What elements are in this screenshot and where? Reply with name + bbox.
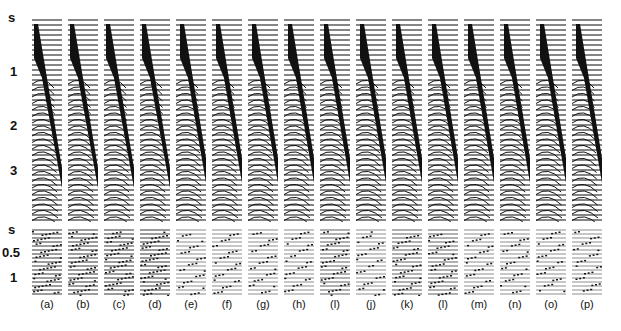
panel-top-16: [572, 18, 602, 222]
panel-bottom-12: [428, 228, 458, 296]
y-label-top-3: 3: [10, 163, 17, 178]
panel-label: (a): [30, 298, 64, 310]
panel-top-7: [248, 18, 278, 222]
y-label-top-2: 2: [10, 118, 17, 133]
panel-bottom-8: [284, 228, 314, 296]
panel-top-11: [392, 18, 422, 222]
panel-top-1: [32, 18, 62, 222]
panel-bottom-14: [500, 228, 530, 296]
panel-label: (n): [498, 298, 532, 310]
panel-top-14: [500, 18, 530, 222]
panel-bottom-3: [104, 228, 134, 296]
panel-top-10: [356, 18, 386, 222]
panel-label: (g): [246, 298, 280, 310]
panel-label: (d): [138, 298, 172, 310]
panel-label: (p): [570, 298, 604, 310]
panel-label: (m): [462, 298, 496, 310]
panel-bottom-6: [212, 228, 242, 296]
panel-top-5: [176, 18, 206, 222]
panel-label: (o): [534, 298, 568, 310]
panel-top-13: [464, 18, 494, 222]
panel-top-4: [140, 18, 170, 222]
panel-label: (b): [66, 298, 100, 310]
panel-bottom-7: [248, 228, 278, 296]
y-label-bottom-s: s: [8, 222, 15, 237]
panel-label: (j): [354, 298, 388, 310]
panel-bottom-11: [392, 228, 422, 296]
panel-top-2: [68, 18, 98, 222]
panel-bottom-15: [536, 228, 566, 296]
panel-bottom-5: [176, 228, 206, 296]
panel-top-8: [284, 18, 314, 222]
panel-label: (h): [282, 298, 316, 310]
panel-label: (c): [102, 298, 136, 310]
panel-label: (e): [174, 298, 208, 310]
panel-label: (f): [210, 298, 244, 310]
panel-bottom-4: [140, 228, 170, 296]
panel-bottom-13: [464, 228, 494, 296]
panel-bottom-9: [320, 228, 350, 296]
panel-label: (l): [318, 298, 352, 310]
panel-bottom-10: [356, 228, 386, 296]
panel-top-15: [536, 18, 566, 222]
panel-bottom-1: [32, 228, 62, 296]
panel-label: (k): [390, 298, 424, 310]
y-label-top-1: 1: [10, 64, 17, 79]
y-label-bottom-1: 1: [10, 270, 17, 285]
panel-bottom-16: [572, 228, 602, 296]
panel-top-12: [428, 18, 458, 222]
panel-label: (l): [426, 298, 460, 310]
panel-top-6: [212, 18, 242, 222]
y-label-bottom-0.5: 0.5: [2, 245, 20, 260]
y-label-top-s: s: [8, 10, 15, 25]
panel-top-9: [320, 18, 350, 222]
panel-top-3: [104, 18, 134, 222]
panel-bottom-2: [68, 228, 98, 296]
